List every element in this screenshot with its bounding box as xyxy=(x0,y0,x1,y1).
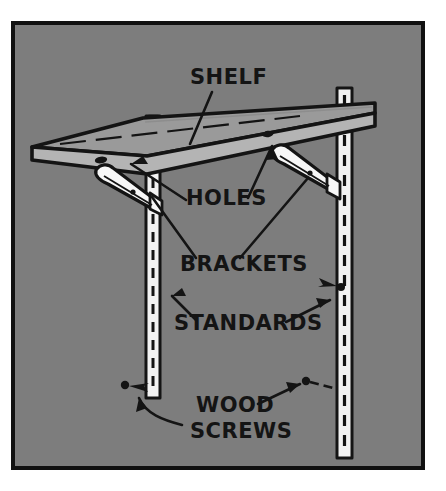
screw-lower-right-head xyxy=(302,377,310,385)
illustration-figure: SHELF HOLES BRACKETS STANDARDS WOOD SCRE… xyxy=(0,0,446,491)
bracket-right-rivet xyxy=(307,170,312,175)
screw-lower-left-head xyxy=(121,381,129,389)
label-holes: HOLES xyxy=(186,186,267,210)
label-brackets: BRACKETS xyxy=(180,252,308,276)
label-standards: STANDARDS xyxy=(174,311,323,335)
label-wood-screws-line-1: WOOD xyxy=(196,393,274,417)
label-wood-screws-line-2: SCREWS xyxy=(190,419,292,443)
standard-right xyxy=(337,88,352,458)
shelf-assembly-diagram: SHELF HOLES BRACKETS STANDARDS WOOD SCRE… xyxy=(0,0,446,491)
bracket-left-rivet xyxy=(130,189,135,194)
screw-mid-right-head xyxy=(337,283,345,291)
label-shelf: SHELF xyxy=(190,65,267,89)
